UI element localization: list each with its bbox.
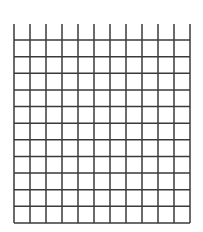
grid-diagram (0, 0, 203, 232)
